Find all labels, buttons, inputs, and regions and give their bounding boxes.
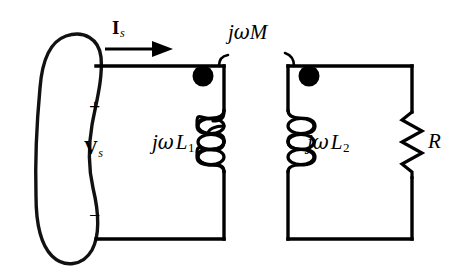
secondary-polarity-dot bbox=[299, 66, 320, 87]
mutual-m: M bbox=[250, 20, 268, 44]
source-voltage-label: Vs bbox=[84, 138, 103, 159]
source-current-subscript: s bbox=[120, 26, 125, 40]
source-positive-terminal-label: + bbox=[89, 97, 100, 117]
source-current-label: Is bbox=[112, 18, 125, 39]
load-resistor-label: R bbox=[428, 131, 441, 152]
source-voltage-subscript: s bbox=[98, 146, 103, 160]
primary-coil-loops bbox=[197, 110, 224, 172]
source-current-symbol: I bbox=[112, 17, 119, 38]
source-negative-terminal-label: − bbox=[89, 205, 100, 225]
secondary-l: L bbox=[331, 130, 343, 154]
primary-inductor-label: jωL1 bbox=[152, 132, 194, 154]
coupling-arc-right bbox=[285, 53, 294, 66]
primary-omega: ω bbox=[158, 131, 174, 154]
source-current-arrow bbox=[105, 41, 173, 57]
mutual-omega: ω bbox=[234, 21, 250, 44]
load-resistor-zigzag bbox=[402, 112, 422, 178]
secondary-subscript: 2 bbox=[343, 140, 350, 155]
primary-polarity-dot bbox=[193, 66, 214, 87]
primary-l: L bbox=[176, 130, 188, 154]
secondary-omega: ω bbox=[313, 131, 329, 154]
primary-subscript: 1 bbox=[188, 140, 195, 155]
secondary-inductor-label: jωL2 bbox=[307, 132, 349, 154]
circuit-diagram-figure: Is jωM Vs + − jωL1 jωL2 R bbox=[0, 0, 459, 276]
mutual-inductance-label: jωM bbox=[228, 22, 267, 43]
source-voltage-symbol: V bbox=[84, 137, 98, 158]
